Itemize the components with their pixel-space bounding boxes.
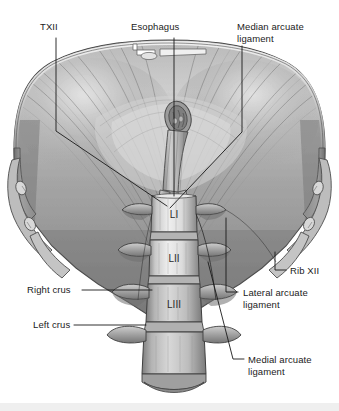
label-lateral-arcuate-line2: ligament	[243, 299, 280, 311]
label-t12: TXII	[40, 21, 58, 33]
label-esophagus: Esophagus	[131, 21, 179, 33]
vertebra-label-l1: LI	[170, 209, 178, 220]
diaphragm-illustration: LI LII LIII	[0, 0, 339, 411]
label-right-crus: Right crus	[27, 284, 71, 296]
vertebra-l4	[142, 332, 206, 374]
vertebra-label-l3: LIII	[167, 299, 181, 310]
label-rib-xii: Rib XII	[290, 265, 319, 277]
label-medial-arcuate-line2: ligament	[248, 366, 285, 378]
label-medial-arcuate-line1: Medial arcuate	[248, 354, 312, 366]
label-left-crus: Left crus	[33, 319, 70, 331]
vertebra-label-l2: LII	[168, 253, 179, 264]
label-median-arcuate-line1: Median arcuate	[237, 21, 304, 33]
bottom-band	[0, 403, 339, 411]
label-lateral-arcuate-line1: Lateral arcuate	[243, 287, 308, 299]
anatomical-figure: LI LII LIII TXII Esophagus Median arcuat…	[0, 0, 339, 411]
label-median-arcuate-line2: ligament	[237, 33, 274, 45]
